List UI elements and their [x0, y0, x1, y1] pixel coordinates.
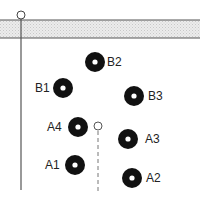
- electrode-label: A1: [45, 158, 60, 172]
- electrode-hole: [129, 175, 134, 180]
- electrode-hole: [72, 162, 77, 167]
- electrode-hole: [131, 93, 136, 98]
- surface-band: [0, 20, 200, 38]
- electrode-label: A2: [146, 171, 161, 185]
- electrode-B1: B1: [35, 78, 73, 98]
- secondary-probe-circle-icon: [94, 122, 102, 130]
- electrode-hole: [60, 85, 65, 90]
- electrode-A3: A3: [118, 129, 160, 149]
- electrode-hole: [75, 124, 80, 129]
- electrode-B3: B3: [124, 86, 163, 106]
- electrode-label: B1: [35, 81, 50, 95]
- electrode-label: B2: [107, 55, 122, 69]
- main-probe-circle-icon: [17, 11, 25, 19]
- electrode-A1: A1: [45, 155, 85, 175]
- secondary-probe: [94, 122, 102, 192]
- electrode-A2: A2: [122, 168, 161, 188]
- electrode-hole: [92, 59, 97, 64]
- electrode-diagram: B2 B1 B3 A4 A3 A1 A2: [0, 0, 200, 198]
- electrode-B2: B2: [85, 52, 122, 72]
- electrode-label: B3: [148, 89, 163, 103]
- electrode-hole: [125, 136, 130, 141]
- electrode-label: A4: [47, 120, 62, 134]
- electrode-label: A3: [145, 132, 160, 146]
- electrode-A4: A4: [47, 117, 88, 137]
